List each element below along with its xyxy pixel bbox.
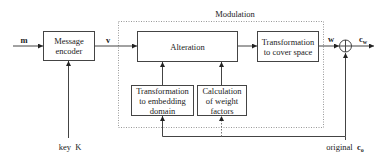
message-encoder-line2: encoder xyxy=(56,46,83,56)
embedding-transform-label: Transformation to embedding domain xyxy=(131,85,194,116)
cover-transform-label: Transformation to cover space xyxy=(257,31,319,62)
embedding-transform-line1: Transformation xyxy=(136,86,189,96)
embedding-transform-line3: domain xyxy=(150,106,176,116)
cover-transform-line2: to cover space xyxy=(264,47,313,57)
cover-transform-line1: Transformation xyxy=(262,37,315,47)
message-encoder-line1: Message xyxy=(54,36,84,46)
signal-v-label: v xyxy=(103,35,113,45)
signal-cw-label: cw xyxy=(355,34,371,47)
key-label: key K xyxy=(50,142,90,152)
weight-calc-line1: Calculation xyxy=(202,86,241,96)
signal-m-label: m xyxy=(18,35,30,45)
original-cover-path xyxy=(163,137,346,141)
alteration-text: Alteration xyxy=(170,42,204,52)
diagram-canvas xyxy=(0,0,385,159)
weight-calc-label: Calculation of weight factors xyxy=(197,85,247,116)
weight-calc-line2: of weight xyxy=(206,96,238,106)
original-cover-label: original co xyxy=(320,142,370,155)
embedding-transform-line2: to embedding xyxy=(139,96,186,106)
message-encoder-label: Message encoder xyxy=(43,31,95,61)
modulation-label: Modulation xyxy=(200,9,270,19)
signal-w-label: w xyxy=(326,34,336,44)
weight-calc-line3: factors xyxy=(210,106,233,116)
adder-plus-icon xyxy=(340,40,352,52)
alteration-label: Alteration xyxy=(137,31,238,62)
